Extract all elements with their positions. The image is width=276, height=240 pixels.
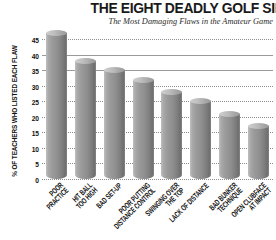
bar-cap [75, 58, 96, 64]
y-axis-tick-label: 25 [32, 99, 39, 106]
bar [219, 114, 240, 179]
bar-cap [46, 30, 67, 36]
gridline: 0 [42, 179, 273, 180]
bar [248, 126, 269, 179]
bar [190, 101, 211, 179]
chart-title-block: THE EIGHT DEADLY GOLF SINS The Most Dama… [83, 1, 273, 26]
plot-area: 051015202530354045 [42, 33, 273, 179]
bar-cap [248, 123, 269, 129]
bar [75, 61, 96, 179]
y-axis-title-text: % OF TEACHERS WHO LISTED EACH FLAW [9, 45, 18, 177]
chart-subtitle: The Most Damaging Flaws in the Amateur G… [89, 16, 273, 26]
bar-series [42, 33, 273, 179]
bar-cap [133, 77, 154, 83]
chart-container: THE EIGHT DEADLY GOLF SINS The Most Dama… [0, 0, 276, 240]
y-axis-tick-label: 35 [32, 68, 39, 75]
y-axis-tick-label: 20 [32, 114, 39, 121]
bar [46, 33, 67, 179]
x-axis-labels: POORPRACTICEHIT BALLTOO HIGHBAD SET-UPPO… [42, 182, 273, 240]
y-axis-tick-label: 10 [32, 145, 39, 152]
y-axis-tick-label: 40 [32, 52, 39, 59]
y-axis-tick-label: 30 [32, 83, 39, 90]
bar-cap [219, 111, 240, 117]
bar-cap [190, 98, 211, 104]
y-axis-tick-label: 0 [35, 177, 39, 184]
y-axis-tick-label: 15 [32, 130, 39, 137]
bar [161, 92, 182, 179]
bar-cap [104, 67, 125, 73]
bar-cap [161, 89, 182, 95]
y-axis-tick-label: 5 [35, 161, 39, 168]
bar [133, 80, 154, 179]
bar [104, 70, 125, 179]
y-axis-tick-label: 45 [32, 37, 39, 44]
page-title: THE EIGHT DEADLY GOLF SINS [91, 1, 273, 15]
y-axis-title: % OF TEACHERS WHO LISTED EACH FLAW [10, 0, 22, 45]
